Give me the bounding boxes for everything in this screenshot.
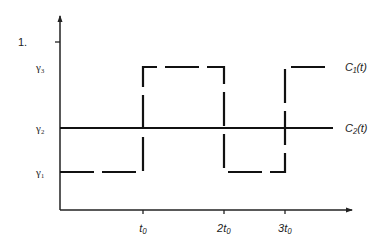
x-tick-label: 3t₀	[278, 222, 292, 234]
figure-number: 1.	[18, 36, 27, 48]
x-tick-label: 2t₀	[216, 222, 231, 234]
series-1-line	[60, 67, 333, 172]
series-1-label: C₁(t)	[345, 61, 367, 73]
series-2-label: C₂(t)	[345, 122, 368, 134]
y-tick-label: γ₃	[35, 61, 45, 73]
x-tick-label: t₀	[139, 222, 147, 234]
y-tick-label: γ₁	[35, 166, 45, 178]
chart: 1. t₀2t₀3t₀γ₁γ₂γ₃ C₁(t)C₂(t)	[0, 0, 389, 245]
y-tick-label: γ₂	[35, 122, 45, 134]
